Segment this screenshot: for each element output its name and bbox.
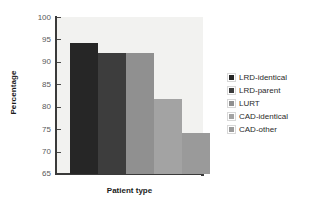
y-tick-label: 95: [29, 36, 51, 44]
bar-cad-other: [182, 133, 210, 174]
bar-series: [56, 17, 203, 174]
chart-legend: LRD-identical LRD-parent LURT CAD-identi…: [228, 71, 313, 136]
legend-swatch-icon: [228, 126, 235, 133]
legend-label: LRD-identical: [239, 73, 287, 82]
y-tick-label: 70: [29, 148, 51, 156]
legend-label: LRD-parent: [239, 86, 280, 95]
bar-lrd-identical: [70, 43, 98, 174]
x-axis-title: Patient type: [56, 186, 203, 195]
legend-item-lrd-identical: LRD-identical: [228, 71, 313, 84]
legend-item-lurt: LURT: [228, 97, 313, 110]
legend-item-cad-identical: CAD-identical: [228, 110, 313, 123]
bar-lrd-parent: [98, 53, 126, 174]
y-tick-label: 75: [29, 126, 51, 134]
legend-label: CAD-identical: [239, 112, 288, 121]
bar-lurt: [126, 53, 154, 174]
legend-swatch-icon: [228, 100, 235, 107]
y-axis-tick-labels: 100 95 90 85 80 75 70 65: [27, 0, 51, 210]
y-tick-label: 80: [29, 103, 51, 111]
legend-swatch-icon: [228, 113, 235, 120]
legend-item-lrd-parent: LRD-parent: [228, 84, 313, 97]
legend-swatch-icon: [228, 74, 235, 81]
legend-swatch-icon: [228, 87, 235, 94]
y-tick-label: 85: [29, 81, 51, 89]
legend-label: CAD-other: [239, 125, 277, 134]
y-axis-title: Percentage: [9, 53, 18, 133]
legend-item-cad-other: CAD-other: [228, 123, 313, 136]
bar-cad-identical: [154, 99, 182, 174]
y-tick-label: 100: [29, 14, 51, 22]
y-tick-label: 90: [29, 58, 51, 66]
y-tick-label: 65: [29, 170, 51, 178]
legend-label: LURT: [239, 99, 260, 108]
bar-chart-figure: Percentage 100 95 90 85 80 75 70 65 Pati…: [0, 0, 313, 210]
